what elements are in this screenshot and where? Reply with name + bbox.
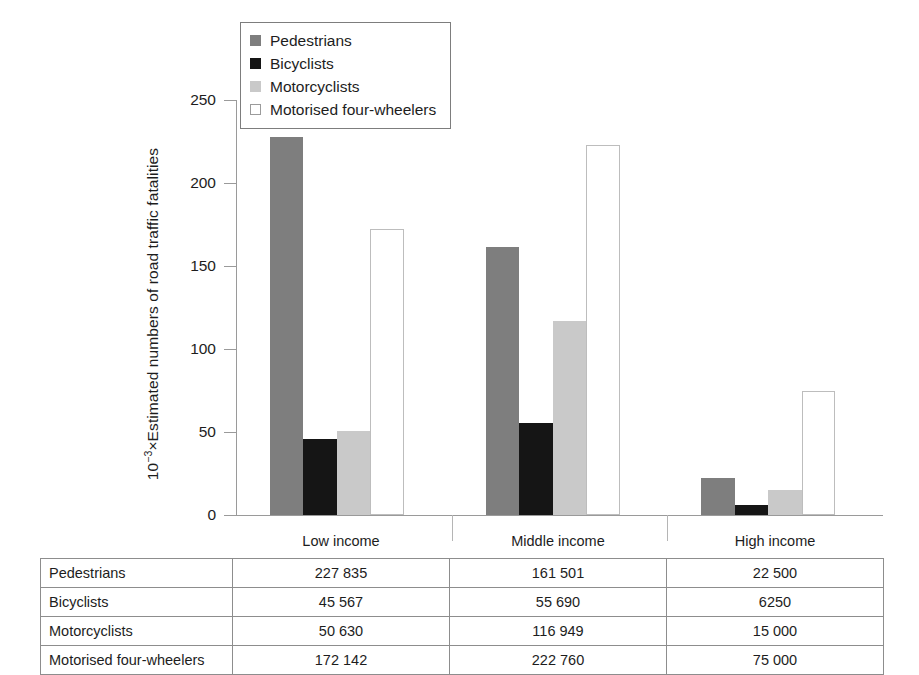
legend-swatch-motorcyclists-icon: [250, 81, 261, 92]
y-axis-tick: [224, 349, 236, 350]
legend-item-motorcyclists: Motorcyclists: [250, 75, 436, 98]
table-row: Motorcyclists 50 630 116 949 15 000: [41, 617, 884, 646]
data-table: Low income Middle income High income Ped…: [40, 528, 884, 675]
y-axis-tick-label: 0: [174, 507, 216, 523]
legend-swatch-pedestrians-icon: [250, 35, 261, 46]
y-axis-tick: [224, 183, 236, 184]
table-corner-cell: [41, 528, 233, 559]
column-header-middle-income: Middle income: [450, 528, 667, 559]
column-header-high-income: High income: [667, 528, 884, 559]
cell-pedestrians-high: 22 500: [667, 559, 884, 588]
y-axis-tick: [224, 432, 236, 433]
y-axis-title-rest: ×Estimated numbers of road traffic fatal…: [144, 148, 161, 451]
y-axis-tick: [224, 266, 236, 267]
cell-four-wheelers-middle: 222 760: [450, 646, 667, 675]
cell-bicyclists-middle: 55 690: [450, 588, 667, 617]
legend-item-fourwheelers: Motorised four-wheelers: [250, 98, 436, 121]
table-header-row: Low income Middle income High income: [41, 528, 884, 559]
bar-pedestrians-middle-income: [486, 247, 520, 515]
bar-motorcyclists-middle-income: [553, 321, 587, 515]
legend-item-bicyclists: Bicyclists: [250, 52, 436, 75]
table-body: Pedestrians 227 835 161 501 22 500 Bicyc…: [41, 559, 884, 675]
y-axis-title: 10−3×Estimated numbers of road traffic f…: [144, 99, 162, 529]
bar-motorcyclists-high-income: [768, 490, 802, 515]
y-axis-tick: [224, 100, 236, 101]
bar-bicyclists-low-income: [303, 439, 337, 515]
bars-layer: [236, 100, 883, 515]
x-axis-line: [236, 515, 883, 516]
legend-item-pedestrians: Pedestrians: [250, 29, 436, 52]
bar-four-wheelers-low-income: [370, 229, 404, 515]
cell-four-wheelers-low: 172 142: [233, 646, 450, 675]
y-axis-tick-label: 100: [174, 341, 216, 357]
bar-pedestrians-high-income: [701, 478, 735, 515]
cell-bicyclists-low: 45 567: [233, 588, 450, 617]
row-label-motorcyclists: Motorcyclists: [41, 617, 233, 646]
cell-pedestrians-middle: 161 501: [450, 559, 667, 588]
bar-bicyclists-high-income: [735, 505, 769, 515]
table-row: Motorised four-wheelers 172 142 222 760 …: [41, 646, 884, 675]
cell-pedestrians-low: 227 835: [233, 559, 450, 588]
column-header-low-income: Low income: [233, 528, 450, 559]
legend-label-four-wheelers: Motorised four-wheelers: [270, 102, 436, 118]
y-axis-tick-label: 250: [174, 92, 216, 108]
cell-bicyclists-high: 6250: [667, 588, 884, 617]
table-row: Bicyclists 45 567 55 690 6250: [41, 588, 884, 617]
legend-swatch-bicyclists-icon: [250, 58, 261, 69]
legend-swatch-four-wheelers-icon: [250, 104, 261, 115]
bar-bicyclists-middle-income: [519, 423, 553, 515]
legend-label-pedestrians: Pedestrians: [270, 33, 352, 49]
y-axis-tick-label: 200: [174, 175, 216, 191]
chart-figure: 10−3×Estimated numbers of road traffic f…: [0, 0, 919, 675]
y-axis-tick-label: 50: [174, 424, 216, 440]
table-head: Low income Middle income High income: [41, 528, 884, 559]
bar-pedestrians-low-income: [270, 137, 304, 515]
bar-motorcyclists-low-income: [337, 431, 371, 515]
chart-legend: Pedestrians Bicyclists Motorcyclists Mot…: [240, 22, 451, 129]
y-axis-tick-label: 150: [174, 258, 216, 274]
y-axis-title-prefix: 10: [144, 463, 161, 480]
y-axis-tick: [224, 515, 236, 516]
cell-four-wheelers-high: 75 000: [667, 646, 884, 675]
cell-motorcyclists-high: 15 000: [667, 617, 884, 646]
table-row: Pedestrians 227 835 161 501 22 500: [41, 559, 884, 588]
legend-label-motorcyclists: Motorcyclists: [270, 79, 360, 95]
y-axis-title-exponent: −3: [142, 451, 154, 463]
row-label-bicyclists: Bicyclists: [41, 588, 233, 617]
cell-motorcyclists-low: 50 630: [233, 617, 450, 646]
legend-label-bicyclists: Bicyclists: [270, 56, 334, 72]
bar-four-wheelers-middle-income: [586, 145, 620, 515]
row-label-four-wheelers: Motorised four-wheelers: [41, 646, 233, 675]
bar-four-wheelers-high-income: [802, 391, 836, 516]
cell-motorcyclists-middle: 116 949: [450, 617, 667, 646]
row-label-pedestrians: Pedestrians: [41, 559, 233, 588]
